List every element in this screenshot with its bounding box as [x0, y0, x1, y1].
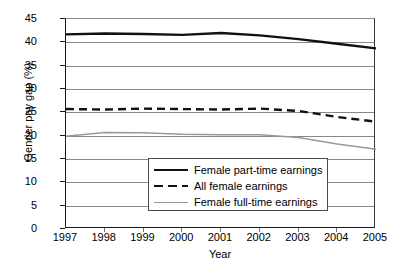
- x-axis-tick-label: 2000: [159, 231, 203, 243]
- y-axis-tick-label: 30: [11, 83, 37, 93]
- legend-label: Female part-time earnings: [194, 164, 322, 176]
- x-axis-tick-label: 2002: [237, 231, 281, 243]
- legend-item: All female earnings: [149, 178, 327, 194]
- y-axis-tick-label: 0: [11, 223, 37, 233]
- y-axis-tick-label: 5: [11, 200, 37, 210]
- y-axis-tick-label: 35: [11, 60, 37, 70]
- series-line-female-full-time-earnings: [66, 132, 376, 149]
- chart-legend: Female part-time earnings All female ear…: [148, 158, 328, 211]
- y-axis-tick-label: 10: [11, 176, 37, 186]
- x-axis-tick-label: 2005: [353, 231, 397, 243]
- x-axis-tick-label: 2004: [314, 231, 358, 243]
- y-axis-tick-mark: [60, 135, 65, 136]
- x-axis-tick-mark: [181, 228, 182, 232]
- y-axis-tick-label: 15: [11, 153, 37, 163]
- series-line-female-part-time-earnings: [66, 33, 376, 48]
- y-axis-tick-mark: [60, 88, 65, 89]
- legend-label: Female full-time earnings: [194, 196, 318, 208]
- y-axis-tick-mark: [60, 181, 65, 182]
- x-axis-tick-mark: [220, 228, 221, 232]
- y-axis-tick-mark: [60, 41, 65, 42]
- x-axis-tick-label: 1999: [121, 231, 165, 243]
- y-axis-tick-mark: [60, 18, 65, 19]
- y-axis-tick-mark: [60, 65, 65, 66]
- series-line-all-female-earnings: [66, 109, 376, 122]
- y-axis-tick-mark: [60, 228, 65, 229]
- x-axis-tick-label: 2001: [198, 231, 242, 243]
- x-axis-tick-label: 1997: [43, 231, 87, 243]
- chart-container: Gender pay gap (%) Year Female part-time…: [0, 0, 418, 270]
- x-axis-title: Year: [65, 248, 375, 260]
- legend-item: Female part-time earnings: [149, 162, 327, 178]
- x-axis-tick-mark: [298, 228, 299, 232]
- y-axis-tick-mark: [60, 158, 65, 159]
- legend-swatch-female-full-time: [154, 196, 188, 208]
- legend-item: Female full-time earnings: [149, 194, 327, 210]
- y-axis-tick-label: 40: [11, 36, 37, 46]
- legend-label: All female earnings: [194, 180, 288, 192]
- y-axis-tick-label: 45: [11, 13, 37, 23]
- y-axis-tick-mark: [60, 111, 65, 112]
- x-axis-tick-label: 1998: [82, 231, 126, 243]
- x-axis-tick-mark: [259, 228, 260, 232]
- x-axis-tick-mark: [336, 228, 337, 232]
- x-axis-tick-mark: [143, 228, 144, 232]
- legend-swatch-female-part-time: [154, 164, 188, 176]
- y-axis-tick-label: 20: [11, 130, 37, 140]
- x-axis-tick-mark: [104, 228, 105, 232]
- legend-swatch-all-female: [154, 180, 188, 192]
- x-axis-tick-label: 2003: [276, 231, 320, 243]
- y-axis-tick-mark: [60, 205, 65, 206]
- y-axis-tick-label: 25: [11, 106, 37, 116]
